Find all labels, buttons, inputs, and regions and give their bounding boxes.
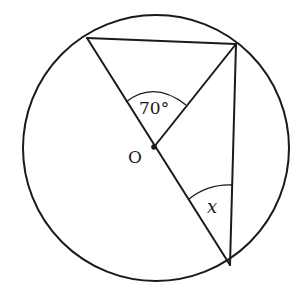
center-label-o: O xyxy=(128,147,142,167)
angle-label-x: x xyxy=(207,196,217,217)
chord-ab xyxy=(87,38,236,44)
radius-ob xyxy=(154,44,236,147)
diameter-ac xyxy=(87,38,230,265)
chord-bc xyxy=(230,44,236,265)
circle-diagram: 70° O x xyxy=(0,0,304,298)
angle-label-70: 70° xyxy=(139,98,169,118)
center-point xyxy=(151,144,157,150)
